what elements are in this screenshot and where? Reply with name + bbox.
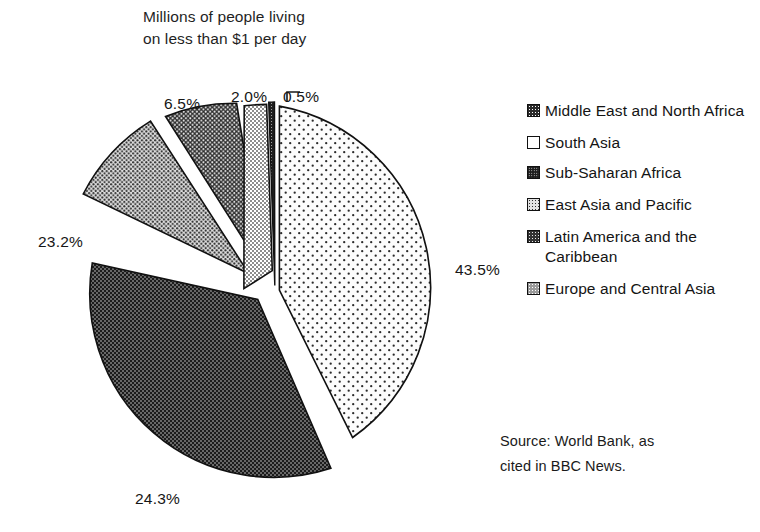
- pie-slice-south-asia: [279, 106, 430, 437]
- pie-chart-svg: [0, 60, 500, 530]
- chart-legend: Middle East and North Africa South Asia …: [527, 101, 752, 311]
- slice-label-south-asia: 43.5%: [455, 261, 500, 279]
- legend-label: South Asia: [545, 133, 620, 153]
- legend-swatch-icon: [527, 166, 540, 179]
- legend-item-east-asia-pacific[interactable]: East Asia and Pacific: [527, 195, 752, 215]
- chart-title: Millions of people living on less than $…: [143, 6, 306, 50]
- legend-label: Middle East and North Africa: [545, 101, 744, 121]
- legend-swatch-icon: [527, 104, 540, 117]
- pie-chart: [0, 60, 500, 530]
- legend-label: Latin America and the Caribbean: [545, 227, 752, 267]
- slice-label-europe-central-asia: 2.0%: [231, 88, 267, 106]
- legend-swatch-icon: [527, 230, 540, 243]
- slice-label-middle-east-north-africa: 0.5%: [283, 88, 319, 106]
- source-note: Source: World Bank, as cited in BBC News…: [500, 429, 654, 479]
- slice-label-sub-saharan-africa: 24.3%: [135, 490, 180, 508]
- legend-item-middle-east-north-africa[interactable]: Middle East and North Africa: [527, 101, 752, 121]
- legend-label: Europe and Central Asia: [545, 279, 715, 299]
- legend-label: East Asia and Pacific: [545, 195, 692, 215]
- legend-item-latin-america[interactable]: Latin America and the Caribbean: [527, 227, 752, 267]
- pie-slice-europe-central-asia: [244, 104, 272, 288]
- legend-swatch-icon: [527, 136, 540, 149]
- slice-label-latin-america: 6.5%: [164, 95, 200, 113]
- legend-swatch-icon: [527, 198, 540, 211]
- legend-swatch-icon: [527, 282, 540, 295]
- legend-item-sub-saharan-africa[interactable]: Sub-Saharan Africa: [527, 163, 752, 183]
- slice-label-east-asia-pacific: 23.2%: [38, 233, 83, 251]
- legend-item-europe-central-asia[interactable]: Europe and Central Asia: [527, 279, 752, 299]
- legend-label: Sub-Saharan Africa: [545, 163, 681, 183]
- legend-item-south-asia[interactable]: South Asia: [527, 133, 752, 153]
